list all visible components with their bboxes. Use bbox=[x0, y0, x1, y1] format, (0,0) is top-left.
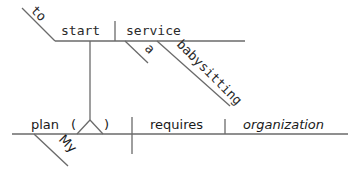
word-service: service bbox=[126, 23, 181, 38]
open-paren: ( bbox=[71, 117, 76, 132]
word-requires: requires bbox=[150, 117, 203, 132]
word-my: My bbox=[56, 132, 80, 156]
word-organization: organization bbox=[243, 117, 324, 132]
word-babysitting: babysitting bbox=[174, 37, 245, 108]
pedestal-right-leg bbox=[90, 120, 103, 134]
sentence-diagram: to start service a babysitting plan ( ) … bbox=[0, 0, 362, 178]
close-paren: ) bbox=[104, 117, 109, 132]
pedestal-left-leg bbox=[77, 120, 90, 134]
word-to: to bbox=[28, 3, 50, 25]
word-plan: plan bbox=[31, 117, 59, 132]
word-a: a bbox=[142, 41, 158, 57]
word-start: start bbox=[61, 23, 100, 38]
